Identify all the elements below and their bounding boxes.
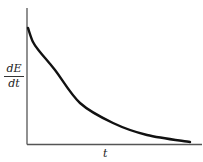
y-axis-label: dE dt [4,63,24,90]
x-axis-label: t [103,147,107,160]
decay-curve [28,28,190,142]
y-label-numerator: dE [4,63,24,77]
y-label-denominator: dt [4,77,24,90]
chart-canvas [0,0,203,162]
